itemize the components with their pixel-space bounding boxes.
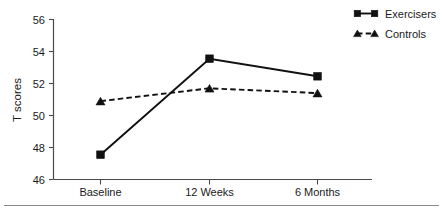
y-axis-title: T scores [11, 78, 23, 122]
legend-marker-square-right [371, 10, 377, 16]
y-tick-label-52: 52 [33, 78, 45, 90]
line-chart-canvas: 56 54 52 50 48 46 T scores Baseline 12 W… [0, 0, 443, 213]
y-tick-label-46: 46 [33, 174, 45, 186]
y-tick-label-48: 48 [33, 142, 45, 154]
y-tick-label-50: 50 [33, 110, 45, 122]
legend-label-controls: Controls [385, 28, 426, 40]
exercisers-point-12-weeks [206, 55, 214, 63]
y-tick-label-56: 56 [33, 14, 45, 26]
x-tick-label-baseline: Baseline [79, 186, 121, 198]
chart-background [0, 0, 443, 213]
x-tick-label-6-months: 6 Months [295, 186, 341, 198]
chart-figure: 56 54 52 50 48 46 T scores Baseline 12 W… [0, 0, 443, 213]
legend-marker-square-left [354, 10, 360, 16]
y-tick-label-54: 54 [33, 46, 45, 58]
legend-label-exercisers: Exercisers [385, 8, 437, 20]
x-tick-label-12-weeks: 12 Weeks [185, 186, 234, 198]
exercisers-point-6-months [314, 73, 322, 81]
exercisers-point-baseline [97, 151, 105, 159]
